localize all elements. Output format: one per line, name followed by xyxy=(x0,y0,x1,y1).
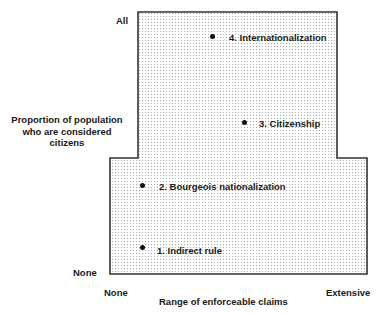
point-marker-4 xyxy=(210,34,215,39)
y-axis-top-label: All xyxy=(116,16,128,26)
point-marker-3 xyxy=(242,120,247,125)
x-axis-left-label: None xyxy=(104,288,128,298)
y-axis-bottom-label: None xyxy=(73,268,97,278)
point-marker-2 xyxy=(140,183,145,188)
citizenship-region xyxy=(110,12,367,274)
x-axis-title: Range of enforceable claims xyxy=(159,297,288,307)
x-axis-right-label: Extensive xyxy=(326,288,370,298)
point-marker-1 xyxy=(140,245,145,250)
point-label-bourgeois-nationalization: 2. Bourgeois nationalization xyxy=(159,182,286,192)
point-label-internationalization: 4. Internationalization xyxy=(229,33,327,43)
point-label-citizenship: 3. Citizenship xyxy=(259,119,320,129)
point-label-indirect-rule: 1. Indirect rule xyxy=(157,246,222,256)
diagram-canvas xyxy=(0,0,383,314)
y-axis-title: Proportion of population who are conside… xyxy=(4,114,130,149)
